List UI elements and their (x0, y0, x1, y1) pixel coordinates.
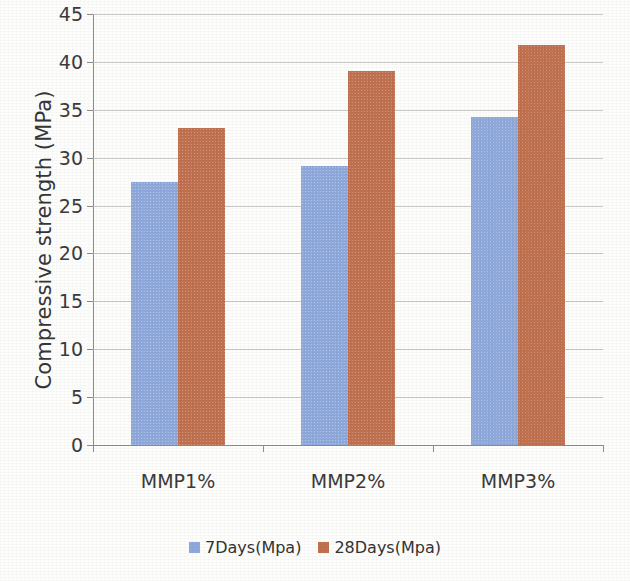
y-tick-mark (87, 397, 93, 398)
y-tick-mark (87, 62, 93, 63)
x-tick-mark (93, 445, 94, 452)
y-tick-label: 35 (39, 98, 83, 120)
bar-chart-figure: Compressive strength (MPa) 0510152025303… (0, 0, 630, 581)
legend-swatch-icon (189, 542, 200, 553)
x-axis-label-3: MMP3% (458, 470, 578, 492)
y-tick-label: 0 (39, 434, 83, 456)
y-tick-mark (87, 110, 93, 111)
bar-mmp3-series1 (518, 45, 565, 445)
x-axis-label-1: MMP1% (118, 470, 238, 492)
y-tick-mark (87, 301, 93, 302)
x-tick-mark (263, 445, 264, 452)
y-tick-mark (87, 349, 93, 350)
bar-mmp1-series0 (131, 182, 178, 445)
x-axis-line (93, 445, 603, 446)
y-tick-mark (87, 158, 93, 159)
y-tick-label: 15 (39, 290, 83, 312)
y-tick-label: 5 (39, 386, 83, 408)
legend-label: 28Days(Mpa) (334, 538, 441, 557)
legend-item-1: 7Days(Mpa) (189, 538, 301, 557)
y-tick-label: 40 (39, 50, 83, 72)
y-tick-label: 45 (39, 3, 83, 25)
chart-legend: 7Days(Mpa)28Days(Mpa) (0, 538, 630, 557)
bar-mmp2-series1 (348, 71, 395, 445)
legend-item-2: 28Days(Mpa) (318, 538, 441, 557)
x-tick-mark (603, 445, 604, 452)
y-axis-line (93, 14, 94, 445)
y-tick-mark (87, 14, 93, 15)
plot-inner (93, 14, 603, 445)
bar-mmp3-series0 (471, 117, 518, 445)
y-tick-label: 30 (39, 146, 83, 168)
y-tick-mark (87, 253, 93, 254)
legend-swatch-icon (318, 542, 329, 553)
gridline (93, 14, 603, 15)
x-axis-label-2: MMP2% (288, 470, 408, 492)
legend-label: 7Days(Mpa) (205, 538, 301, 557)
y-tick-mark (87, 206, 93, 207)
y-tick-label: 25 (39, 194, 83, 216)
y-tick-label: 10 (39, 338, 83, 360)
bar-mmp1-series1 (178, 128, 225, 445)
plot-area (93, 14, 603, 445)
x-tick-mark (433, 445, 434, 452)
bar-mmp2-series0 (301, 166, 348, 445)
y-tick-label: 20 (39, 242, 83, 264)
